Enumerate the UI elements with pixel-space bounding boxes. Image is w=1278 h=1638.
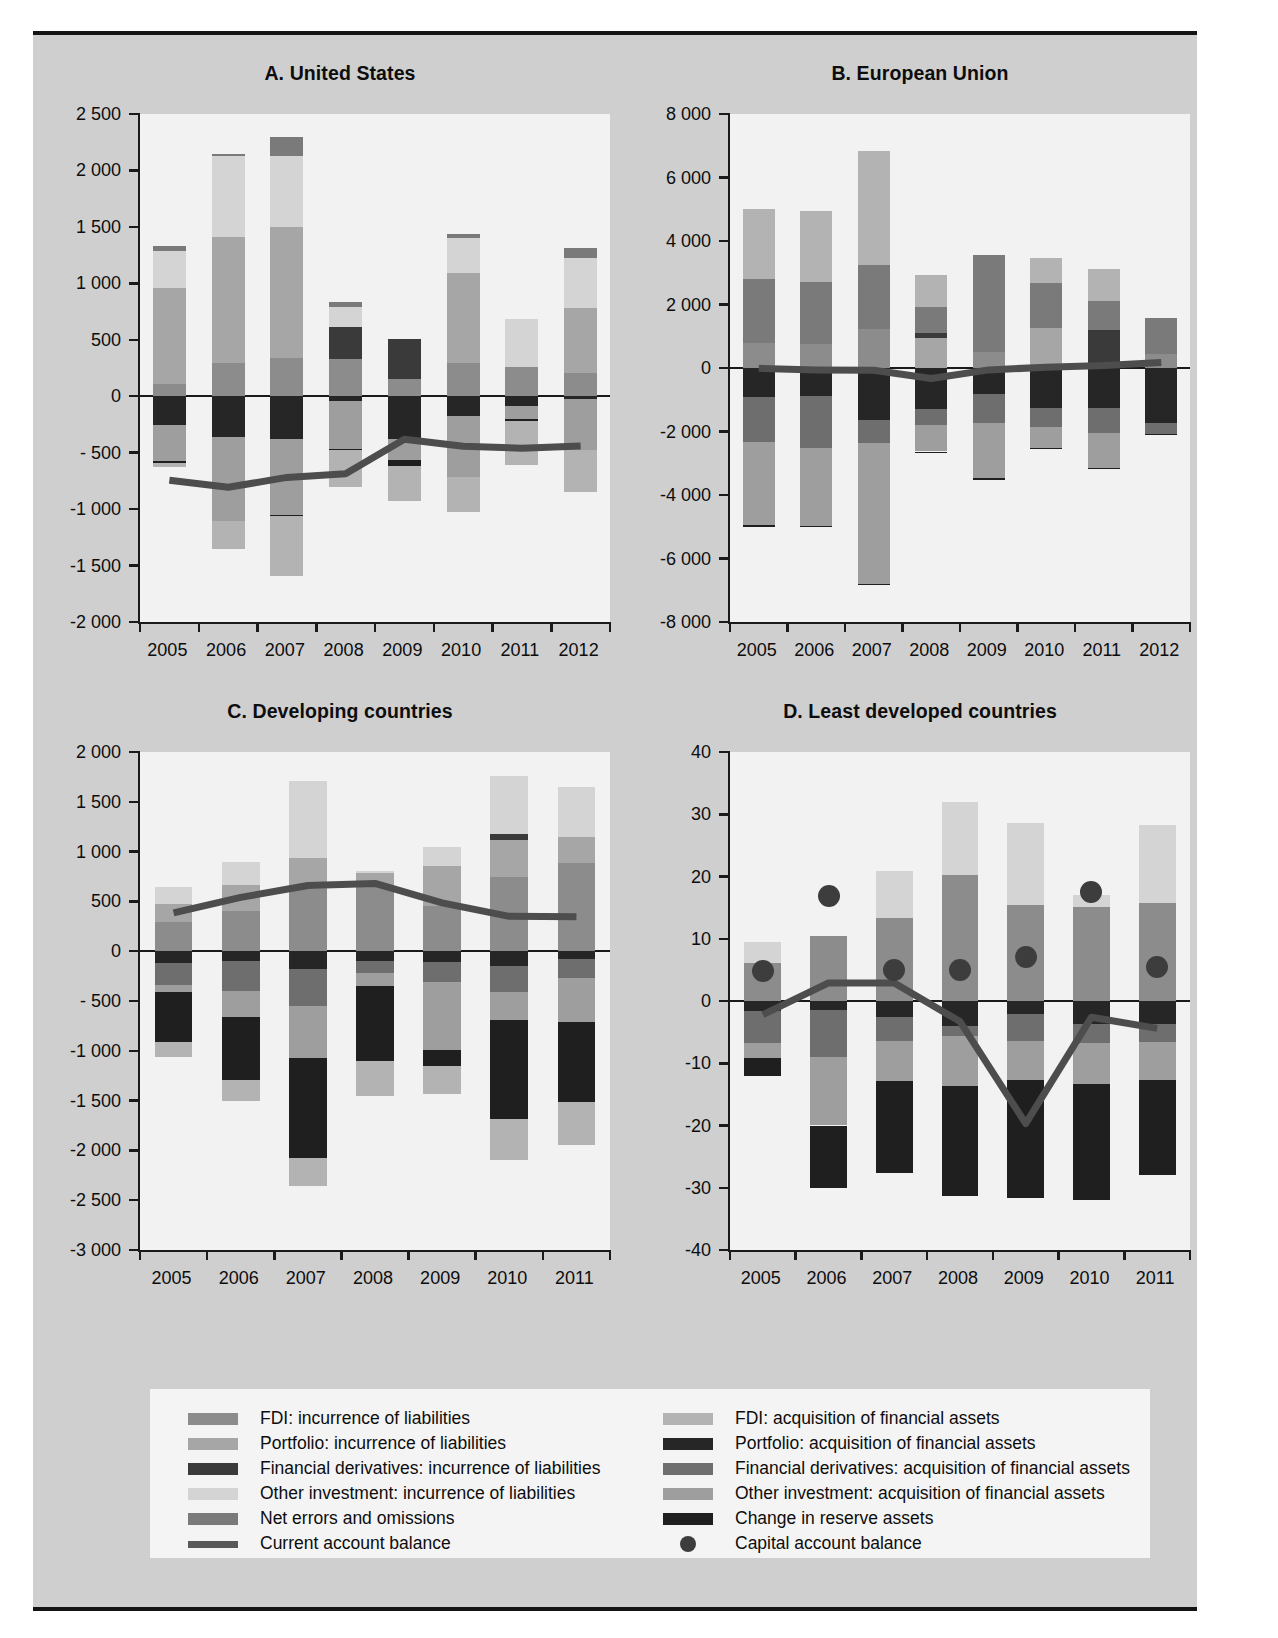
x-axis-tick — [1131, 622, 1134, 632]
x-axis-tick — [542, 1250, 545, 1260]
y-axis-tick — [129, 395, 140, 398]
y-axis-tick — [719, 494, 730, 497]
y-axis-label: -3 000 — [70, 1240, 121, 1261]
x-axis-label: 2009 — [1004, 1268, 1044, 1289]
x-axis-label: 2007 — [872, 1268, 912, 1289]
x-axis-tick — [1057, 1250, 1060, 1260]
y-axis-label: -10 — [685, 1053, 711, 1074]
x-axis-tick — [729, 1250, 732, 1260]
x-axis-label: 2009 — [382, 640, 422, 661]
x-axis-tick — [609, 622, 612, 632]
y-axis-tick — [129, 564, 140, 567]
y-axis-label: 40 — [691, 742, 711, 763]
x-axis-tick — [860, 1250, 863, 1260]
y-axis-tick — [719, 1000, 730, 1003]
x-axis-label: 2008 — [909, 640, 949, 661]
x-axis-tick — [1074, 622, 1077, 632]
capital-account-dot — [818, 885, 840, 907]
x-axis-tick — [407, 1250, 410, 1260]
y-axis-label: -4 000 — [660, 485, 711, 506]
y-axis-tick — [129, 1099, 140, 1102]
x-axis-label: 2008 — [353, 1268, 393, 1289]
panel-title: A. United States — [60, 62, 620, 85]
y-axis-label: 500 — [91, 891, 121, 912]
y-axis-label: - 500 — [80, 442, 121, 463]
y-axis-label: 0 — [111, 386, 121, 407]
y-axis-tick — [129, 1050, 140, 1053]
x-axis-label: 2006 — [206, 640, 246, 661]
plot-area — [138, 752, 610, 1252]
y-axis-tick — [129, 801, 140, 804]
capital-account-dot — [1146, 956, 1168, 978]
x-axis-label: 2007 — [286, 1268, 326, 1289]
figure-root: A. United States-2 000-1 500-1 000- 5000… — [0, 0, 1278, 1638]
legend-label: Change in reserve assets — [735, 1508, 933, 1529]
x-axis-tick — [729, 622, 732, 632]
y-axis-label: 0 — [701, 991, 711, 1012]
y-axis-label: -1 000 — [70, 499, 121, 520]
x-axis-label: 2009 — [420, 1268, 460, 1289]
legend-swatch-icon — [188, 1488, 238, 1500]
x-axis-tick — [256, 622, 259, 632]
legend-label: Financial derivatives: acquisition of fi… — [735, 1458, 1130, 1479]
y-axis-tick — [719, 875, 730, 878]
y-axis-label: -8 000 — [660, 612, 711, 633]
legend-swatch-icon — [663, 1488, 713, 1500]
x-axis-tick — [844, 622, 847, 632]
x-axis-label: 2006 — [794, 640, 834, 661]
y-axis-label: -1 000 — [70, 1040, 121, 1061]
x-axis-tick — [901, 622, 904, 632]
x-axis-tick — [474, 1250, 477, 1260]
y-axis-label: 20 — [691, 866, 711, 887]
y-axis-label: 10 — [691, 928, 711, 949]
y-axis-label: -6 000 — [660, 548, 711, 569]
x-axis-label: 2008 — [324, 640, 364, 661]
current-account-line — [140, 752, 610, 1250]
legend-swatch-icon — [188, 1463, 238, 1475]
y-axis-label: -30 — [685, 1177, 711, 1198]
x-axis-tick — [206, 1250, 209, 1260]
panel-european-union: B. European Union-8 000-6 000-4 000-2 00… — [640, 62, 1200, 672]
y-axis-tick — [129, 1199, 140, 1202]
y-axis-label: 6 000 — [666, 167, 711, 188]
y-axis-tick — [129, 950, 140, 953]
legend-label: Other investment: incurrence of liabilit… — [260, 1483, 575, 1504]
y-axis-tick — [719, 938, 730, 941]
legend-label: Portfolio: acquisition of financial asse… — [735, 1433, 1036, 1454]
x-axis-tick — [198, 622, 201, 632]
y-axis-tick — [129, 169, 140, 172]
legend-swatch-icon — [663, 1438, 713, 1450]
y-axis-label: 500 — [91, 329, 121, 350]
y-axis-label: 0 — [701, 358, 711, 379]
plot-area — [728, 114, 1190, 624]
y-axis-label: 1 000 — [76, 841, 121, 862]
y-axis-label: 2 000 — [76, 742, 121, 763]
legend-swatch-icon — [188, 1438, 238, 1450]
x-axis-label: 2007 — [265, 640, 305, 661]
legend-label: Current account balance — [260, 1533, 451, 1554]
legend-label: Capital account balance — [735, 1533, 922, 1554]
x-axis-label: 2009 — [967, 640, 1007, 661]
capital-account-dot — [1015, 946, 1037, 968]
x-axis-label: 2011 — [1136, 1268, 1175, 1289]
x-axis-tick — [992, 1250, 995, 1260]
current-account-line — [140, 114, 610, 622]
y-axis-label: 2 000 — [666, 294, 711, 315]
y-axis-label: -2 000 — [70, 612, 121, 633]
x-axis-label: 2007 — [852, 640, 892, 661]
y-axis-label: -2 000 — [660, 421, 711, 442]
plot-area — [138, 114, 610, 624]
capital-account-dot — [752, 960, 774, 982]
y-axis-tick — [129, 282, 140, 285]
x-axis-tick — [794, 1250, 797, 1260]
legend-line-icon — [188, 1541, 238, 1548]
x-axis-tick — [786, 622, 789, 632]
y-axis-tick — [129, 508, 140, 511]
legend-swatch-icon — [663, 1413, 713, 1425]
legend-label: Financial derivatives: incurrence of lia… — [260, 1458, 600, 1479]
x-axis-tick — [139, 622, 142, 632]
panel-title: B. European Union — [640, 62, 1200, 85]
legend-swatch-icon — [188, 1413, 238, 1425]
y-axis-label: 1 500 — [76, 216, 121, 237]
y-axis-tick — [129, 113, 140, 116]
